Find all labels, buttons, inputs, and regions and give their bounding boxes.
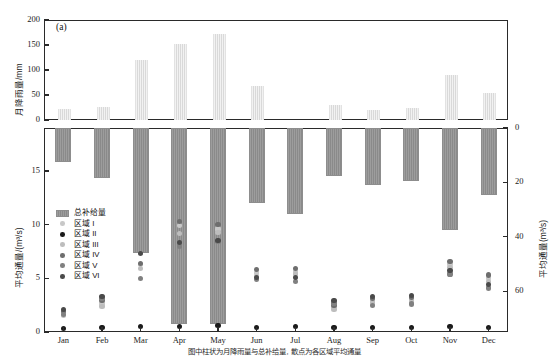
rainfall-bar (445, 75, 458, 120)
rainfall-bar (97, 107, 110, 121)
panel-b-right-tick (503, 182, 508, 183)
panel-b-axes (44, 128, 508, 332)
month-label: Feb (85, 336, 119, 345)
panel-a-tick (44, 94, 49, 95)
legend-dot-wrap (56, 263, 69, 268)
scatter-point (409, 301, 414, 306)
legend-label: 区域 VI (74, 272, 100, 280)
legend-dot-icon (60, 253, 65, 258)
legend-label: 总补给量 (74, 209, 106, 217)
panel-b-x-tick (333, 327, 334, 332)
rainfall-bar (329, 105, 342, 121)
legend-dot-wrap (56, 221, 69, 226)
recharge-bar (55, 128, 71, 162)
panel-b-x-tick (217, 327, 218, 332)
legend-bar-swatch (56, 210, 69, 218)
legend-item: 区域 VI (56, 271, 106, 282)
scatter-point (293, 275, 298, 280)
month-label: Jun (240, 336, 274, 345)
rainfall-bar (58, 109, 71, 120)
recharge-bar (133, 128, 149, 253)
legend-dot-icon (60, 232, 65, 237)
legend-item: 区域 IV (56, 250, 106, 261)
scatter-point (177, 231, 182, 236)
panel-a-tag: (a) (56, 22, 67, 32)
rainfall-bar (483, 93, 496, 121)
scatter-point (370, 303, 375, 308)
legend-dot-wrap (56, 253, 69, 258)
scatter-point (409, 293, 414, 298)
recharge-bar (403, 128, 419, 181)
scatter-point (177, 219, 182, 224)
month-label: May (201, 336, 235, 345)
legend-item: 区域 III (56, 240, 106, 251)
legend-dot-wrap (56, 232, 69, 237)
panel-a-tick (44, 69, 49, 70)
panel-a-tick-label: 50 (12, 90, 40, 99)
scatter-point (486, 272, 491, 277)
panel-b-right-tick (503, 236, 508, 237)
panel-b-left-tick (44, 278, 49, 279)
month-label: Nov (433, 336, 467, 345)
month-label: Mar (124, 336, 158, 345)
legend-dot-icon (60, 263, 65, 268)
panel-b-left-tick (44, 224, 49, 225)
panel-b-x-tick (411, 327, 412, 332)
scatter-point (447, 268, 452, 273)
panel-b-left-tick (44, 331, 49, 332)
legend-dot-icon (60, 274, 65, 279)
rainfall-bar (251, 86, 264, 120)
panel-a-tick-label: 0 (12, 115, 40, 124)
scatter-point (61, 307, 66, 312)
legend-item: 区域 V (56, 261, 106, 272)
scatter-point (215, 238, 220, 243)
month-label: Aug (317, 336, 351, 345)
legend-dot-icon (60, 221, 65, 226)
legend-label: 区域 IV (74, 251, 100, 259)
scatter-point (99, 294, 104, 299)
panel-a-tick-label: 100 (12, 65, 40, 74)
panel-a-tick-label: 150 (12, 40, 40, 49)
legend-item: 区域 II (56, 229, 106, 240)
legend-dot-wrap (56, 242, 69, 247)
month-label: Dec (472, 336, 506, 345)
panel-b-x-tick (179, 327, 180, 332)
rainfall-bar (174, 44, 187, 121)
legend-label: 区域 III (74, 241, 99, 249)
legend-label: 区域 II (74, 230, 97, 238)
legend-dot-wrap (56, 274, 69, 279)
panel-b-right-tick-label: 20 (515, 177, 524, 186)
scatter-point (215, 230, 220, 235)
recharge-bar (249, 128, 265, 203)
recharge-bar (481, 128, 497, 195)
legend-item: 区域 I (56, 219, 106, 230)
panel-b-left-tick-label: 5 (18, 273, 40, 282)
panel-b-x-tick (140, 327, 141, 332)
rainfall-bar (367, 110, 380, 121)
legend-dot-icon (60, 242, 65, 247)
panel-a-tick (44, 19, 49, 20)
month-label: Sep (356, 336, 390, 345)
panel-b-right-tick-label: 40 (515, 232, 524, 241)
panel-b-right-y-axis-label: 平均通量(m³/s) (536, 220, 548, 278)
panel-b-x-tick (256, 327, 257, 332)
panel-a-tick-label: 200 (12, 15, 40, 24)
recharge-bar (94, 128, 110, 178)
month-label: Apr (162, 336, 196, 345)
scatter-point (99, 304, 104, 309)
rainfall-bar (406, 108, 419, 120)
panel-a-tick (44, 44, 49, 45)
scatter-point (447, 259, 452, 264)
legend-label: 区域 V (74, 262, 97, 270)
panel-b-left-tick-label: 10 (18, 220, 40, 229)
panel-b-x-tick (295, 327, 296, 332)
month-label: Jan (46, 336, 80, 345)
figure-root: (a) 月降雨量/mm 050100150200 (b) 平均通量/(m³/s)… (0, 0, 549, 357)
panel-b-x-tick (101, 327, 102, 332)
panel-b-right-tick-label: 60 (515, 286, 524, 295)
panel-b-legend: 总补给量区域 I区域 II区域 III区域 IV区域 V区域 VI (56, 208, 106, 282)
figure-caption: 图中柱状为月降雨量与总补给量, 散点为各区域平均通量 (0, 345, 549, 356)
recharge-bar (442, 128, 458, 230)
recharge-bar (365, 128, 381, 185)
panel-b-left-tick-label: 15 (18, 166, 40, 175)
